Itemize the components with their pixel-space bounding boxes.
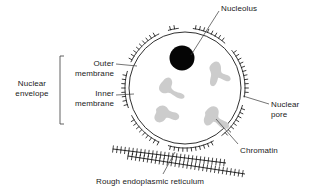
ribosome-tick (139, 44, 141, 46)
outer-membrane-segment (168, 28, 179, 30)
leader-inner-mem (116, 94, 134, 95)
ribosome-tick (228, 130, 230, 132)
ribosome-tick (146, 38, 148, 41)
ribosome-tick (174, 147, 175, 150)
outer-membrane-segment (222, 105, 243, 136)
outer-membrane-segment (131, 34, 159, 62)
ribosome-tick (204, 28, 205, 31)
ribosome-tick (238, 116, 241, 118)
rough-er-strand (128, 156, 245, 174)
label-inner-membrane-line2: membrane (62, 99, 114, 109)
label-nucleolus-text: Nucleolus (221, 4, 257, 13)
ribosome-tick (195, 26, 196, 29)
ribosome-tick (170, 26, 171, 29)
diagram-canvas: Nucleolus Nuclear envelope Outer membran… (0, 0, 319, 194)
ribosome-tick (236, 120, 239, 122)
ribosome-tick (150, 138, 152, 141)
ribosome-tick (123, 75, 126, 76)
ribosome-tick (234, 123, 237, 125)
ribosome-tick (146, 135, 148, 138)
ribosome-tick (207, 29, 208, 32)
label-chromatin-text: Chromatin (240, 146, 278, 155)
ribosome-tick (241, 109, 244, 110)
label-outer-membrane-line1: Outer (62, 59, 114, 69)
ribosome-tick (134, 51, 137, 53)
chromatin-blob (154, 105, 179, 122)
ribosome-tick (211, 142, 212, 145)
label-outer-membrane-line2: membrane (62, 69, 114, 79)
ribosome-tick (225, 133, 227, 136)
label-nucleolus: Nucleolus (221, 4, 257, 14)
ribosome-tick (236, 54, 239, 56)
chromatin-blob (204, 106, 229, 129)
ribosome-tick (170, 146, 171, 149)
outer-membrane-segment (125, 71, 128, 108)
ribosome-tick (123, 100, 126, 101)
ribosome-tick (234, 51, 237, 53)
label-nuclear-envelope: Nuclear envelope (8, 79, 56, 99)
ribosome-tick (136, 127, 139, 129)
ribosome-tick (200, 26, 201, 29)
ribosome-tick (124, 105, 127, 106)
ribosome-tick (143, 133, 145, 136)
ribosome-tick (243, 71, 246, 72)
ribosome-tick (139, 130, 141, 132)
label-rough-endoplasmic-reticulum: Rough endoplasmic reticulum (96, 177, 204, 187)
nucleolus-graphic (170, 46, 195, 71)
label-rough-er-text: Rough endoplasmic reticulum (96, 177, 204, 186)
ribosome-tick (207, 144, 208, 147)
label-inner-membrane: Inner membrane (62, 89, 114, 109)
ribosome-tick (241, 66, 244, 67)
ribosome-tick (134, 123, 137, 125)
chromatin-blob (209, 62, 230, 87)
ribosome-tick (238, 58, 241, 60)
ribosome-tick (222, 38, 224, 41)
ribosome-tick (150, 35, 152, 38)
chromatin-graphic (154, 62, 230, 129)
membrane-ribosome-ticks (122, 26, 249, 152)
ribosome-tick (215, 33, 217, 36)
ribosome-tick (195, 147, 196, 150)
label-nuclear-pore-line1: Nuclear (271, 100, 299, 110)
ribosome-tick (240, 62, 243, 63)
label-inner-membrane-line1: Inner (62, 89, 114, 99)
label-nuclear-pore: Nuclear pore (271, 100, 299, 120)
ribosome-tick (157, 142, 158, 145)
outer-membrane-segment (244, 88, 245, 97)
label-chromatin: Chromatin (240, 146, 278, 156)
ribosome-tick (231, 127, 234, 129)
ribosome-tick (240, 112, 243, 113)
leader-nuclear-pore (243, 96, 269, 104)
label-nuclear-pore-line2: pore (271, 110, 299, 120)
ribosome-tick (200, 146, 201, 149)
ribosome-tick (143, 41, 145, 44)
ribosome-tick (153, 140, 155, 143)
ribosome-tick (131, 54, 134, 56)
chromatin-blob (159, 78, 185, 99)
ribosome-tick (219, 35, 221, 38)
label-outer-membrane: Outer membrane (62, 59, 114, 79)
ribosome-tick (211, 31, 212, 34)
ribosome-tick (204, 145, 205, 148)
label-nuclear-envelope-line1: Nuclear (8, 79, 56, 89)
ribosome-tick (153, 33, 155, 36)
ribosome-tick (129, 58, 132, 60)
ribosome-tick (131, 120, 134, 122)
label-nuclear-envelope-line2: envelope (8, 89, 56, 99)
ribosome-tick (244, 75, 247, 76)
ribosome-tick (174, 26, 175, 29)
ribosome-tick (136, 47, 139, 49)
